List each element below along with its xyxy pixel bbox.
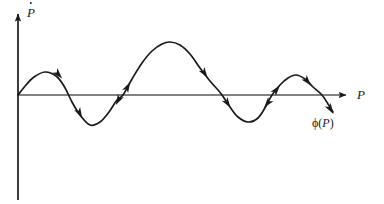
figure-canvas: P P ϕ(P): [0, 0, 384, 204]
phi-curve-path: [18, 42, 333, 125]
x-axis-label-text: P: [357, 87, 365, 102]
curve-label: ϕ(P): [312, 117, 334, 129]
flow-arrow-10: [325, 103, 336, 116]
flow-arrow-3: [122, 80, 133, 93]
phi-curve: [18, 42, 333, 125]
flow-arrow-8: [261, 97, 273, 110]
y-axis-label: P: [27, 6, 35, 19]
p-dot-accent-icon: [30, 2, 32, 4]
phase-portrait-svg: [0, 0, 384, 204]
x-axis-label: P: [357, 88, 365, 101]
curve-label-paren-close: ): [330, 116, 334, 130]
flow-arrow-6: [222, 97, 234, 110]
curve-label-var: P: [322, 116, 329, 130]
y-axis-label-text: P: [27, 5, 35, 20]
